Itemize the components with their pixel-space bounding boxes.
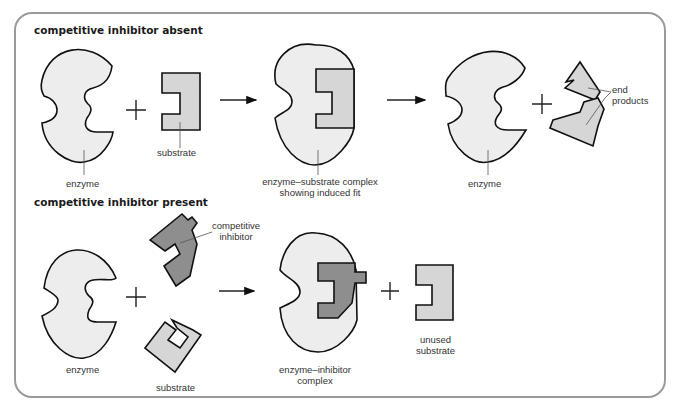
substrate-shape-1 [162, 73, 200, 130]
label-enzyme-inhibitor-complex: enzyme–inhibitor complex [270, 364, 360, 386]
end-product-2 [550, 98, 604, 146]
plus-sign-2 [532, 94, 552, 114]
label-complex-line2: showing induced fit [250, 187, 390, 198]
label-end-products-line1: end [612, 84, 648, 95]
label-eic-line2: complex [270, 375, 360, 386]
end-product-1 [565, 62, 600, 100]
label-enzyme-3: enzyme [66, 364, 99, 375]
substrate-shape-2 [145, 320, 201, 372]
label-complex-line1: enzyme–substrate complex [250, 176, 390, 187]
label-enzyme-1: enzyme [66, 178, 99, 189]
diagram-graphics [0, 0, 680, 411]
label-competitive-inhibitor: competitive inhibitor [212, 220, 260, 242]
plus-sign-1 [126, 100, 146, 120]
label-substrate-1: substrate [157, 147, 196, 158]
label-end-products: end products [612, 84, 648, 106]
plus-sign-4 [381, 282, 399, 300]
label-enzyme-2: enzyme [468, 178, 501, 189]
enzyme-substrate-complex-shape [275, 44, 354, 165]
label-unused-substrate: unused substrate [408, 334, 463, 356]
label-substrate-2: substrate [156, 382, 195, 393]
enzyme-inhibitor-complex-shape [280, 233, 366, 352]
unused-substrate-shape [416, 265, 453, 320]
plus-sign-3 [126, 287, 146, 307]
competitive-inhibitor-shape [150, 214, 197, 286]
label-unused-line1: unused [408, 334, 463, 345]
enzyme-shape-1 [41, 50, 113, 163]
label-unused-line2: substrate [408, 345, 463, 356]
label-eic-line1: enzyme–inhibitor [270, 364, 360, 375]
label-enzyme-substrate-complex: enzyme–substrate complex showing induced… [250, 176, 390, 198]
label-ci-line2: inhibitor [212, 231, 260, 242]
enzyme-shape-3 [42, 250, 116, 358]
enzyme-shape-2 [446, 51, 527, 162]
label-ci-line1: competitive [212, 220, 260, 231]
label-end-products-line2: products [612, 95, 648, 106]
